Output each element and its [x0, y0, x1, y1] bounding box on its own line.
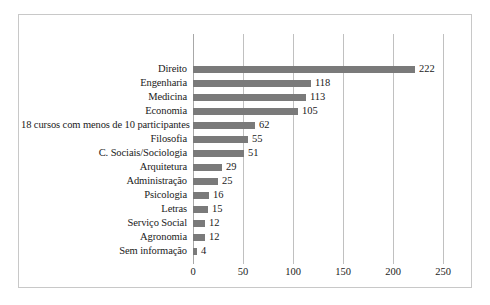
bar-row[interactable]: C. Sociais/Sociologia51 — [19, 146, 471, 160]
bar[interactable] — [193, 206, 208, 213]
bar[interactable] — [193, 234, 205, 241]
category-label: Sem informação — [21, 244, 191, 258]
bar-row[interactable]: Economia105 — [19, 104, 471, 118]
bar-row[interactable]: Direito222 — [19, 62, 471, 76]
chart-figure: Direito222Engenharia118Medicina113Econom… — [18, 14, 472, 288]
category-label: Letras — [21, 202, 191, 216]
category-label: Agronomia — [21, 230, 191, 244]
category-label: C. Sociais/Sociologia — [21, 146, 191, 160]
x-tick-label: 0 — [173, 264, 213, 280]
category-label: Psicologia — [21, 188, 191, 202]
x-tick-label: 200 — [373, 264, 413, 280]
bar-row[interactable]: Filosofia55 — [19, 132, 471, 146]
bar-value-label: 16 — [213, 188, 224, 202]
bar-row[interactable]: Arquitetura29 — [19, 160, 471, 174]
bar-value-label: 51 — [248, 146, 259, 160]
bar-row[interactable]: Agronomia12 — [19, 230, 471, 244]
bar-value-label: 62 — [259, 118, 270, 132]
category-label: Engenharia — [21, 76, 191, 90]
bars-layer: Direito222Engenharia118Medicina113Econom… — [19, 15, 471, 287]
category-label: Economia — [21, 104, 191, 118]
bar[interactable] — [193, 94, 306, 101]
bar[interactable] — [193, 108, 298, 115]
category-label: 18 cursos com menos de 10 participantes — [21, 118, 191, 132]
bar[interactable] — [193, 66, 415, 73]
bar[interactable] — [193, 80, 311, 87]
x-tick-label: 150 — [323, 264, 363, 280]
bar-value-label: 15 — [212, 202, 223, 216]
category-label: Medicina — [21, 90, 191, 104]
x-axis-tick-labels: 050100150200250 — [19, 264, 471, 280]
bar-value-label: 25 — [222, 174, 233, 188]
bar-value-label: 113 — [310, 90, 325, 104]
bar-row[interactable]: Serviço Social12 — [19, 216, 471, 230]
bar-row[interactable]: 18 cursos com menos de 10 participantes6… — [19, 118, 471, 132]
bar-value-label: 12 — [209, 230, 220, 244]
bar-row[interactable]: Letras15 — [19, 202, 471, 216]
bar[interactable] — [193, 220, 205, 227]
x-tick-label: 50 — [223, 264, 263, 280]
bar-value-label: 12 — [209, 216, 220, 230]
bar-value-label: 118 — [315, 76, 330, 90]
bar[interactable] — [193, 136, 248, 143]
category-label: Arquitetura — [21, 160, 191, 174]
bar-row[interactable]: Psicologia16 — [19, 188, 471, 202]
bar-row[interactable]: Administração25 — [19, 174, 471, 188]
plot-area: Direito222Engenharia118Medicina113Econom… — [19, 15, 471, 287]
bar[interactable] — [193, 192, 209, 199]
bar[interactable] — [193, 178, 218, 185]
category-label: Direito — [21, 62, 191, 76]
category-label: Administração — [21, 174, 191, 188]
bar[interactable] — [193, 164, 222, 171]
category-label: Filosofia — [21, 132, 191, 146]
bar-row[interactable]: Sem informação4 — [19, 244, 471, 258]
x-tick-label: 250 — [423, 264, 463, 280]
category-label: Serviço Social — [21, 216, 191, 230]
bar-value-label: 55 — [252, 132, 263, 146]
bar[interactable] — [193, 248, 197, 255]
x-tick-label: 100 — [273, 264, 313, 280]
bar-value-label: 29 — [226, 160, 237, 174]
bar[interactable] — [193, 122, 255, 129]
bar-value-label: 222 — [419, 62, 435, 76]
bar[interactable] — [193, 150, 244, 157]
bar-value-label: 105 — [302, 104, 318, 118]
bar-row[interactable]: Engenharia118 — [19, 76, 471, 90]
bar-row[interactable]: Medicina113 — [19, 90, 471, 104]
bar-value-label: 4 — [201, 244, 206, 258]
